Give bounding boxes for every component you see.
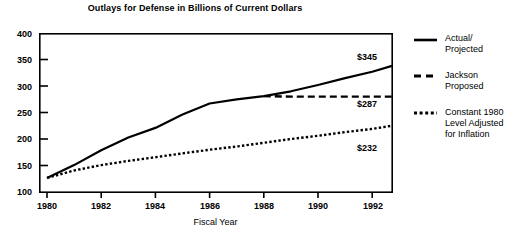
plot-frame — [40, 34, 392, 192]
plot-area — [0, 0, 521, 236]
y-tick-marks — [40, 60, 48, 166]
legend-label-line3: for Inflation — [445, 129, 504, 140]
chart-figure: Outlays for Defense in Billions of Curre… — [0, 0, 521, 236]
legend-label-line1: Jackson — [445, 70, 484, 81]
legend-label-line1: Constant 1980 — [445, 107, 504, 118]
legend-label-line2: Projected — [445, 44, 483, 55]
value-label-jackson-proposed: $287 — [357, 99, 377, 109]
legend-label-line1: Actual/ — [445, 33, 483, 44]
series-actual-projected — [47, 66, 392, 178]
value-label-constant-1980: $232 — [357, 143, 377, 153]
legend-item-constant-1980: Constant 1980 Level Adjusted for Inflati… — [445, 107, 504, 140]
legend-label-line2: Proposed — [445, 81, 484, 92]
legend-item-jackson-proposed: Jackson Proposed — [445, 70, 484, 92]
legend-swatches — [414, 40, 437, 113]
value-label-actual-projected: $345 — [357, 52, 377, 62]
series-jackson-proposed — [264, 96, 392, 97]
legend-label-line2: Level Adjusted — [445, 118, 504, 129]
legend-item-actual-projected: Actual/ Projected — [445, 33, 483, 55]
